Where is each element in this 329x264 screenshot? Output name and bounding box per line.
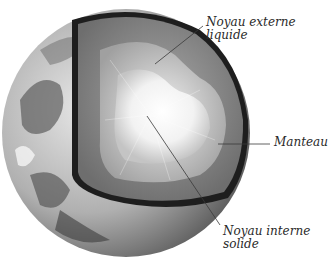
label-mantle: Manteau bbox=[274, 136, 328, 149]
label-outer-core-line2: liquide bbox=[206, 29, 296, 42]
label-outer-core: Noyau externe liquide bbox=[206, 16, 296, 42]
label-inner-core-line2: solide bbox=[223, 238, 310, 251]
label-inner-core: Noyau interne solide bbox=[223, 225, 310, 251]
label-mantle-line1: Manteau bbox=[274, 136, 328, 149]
